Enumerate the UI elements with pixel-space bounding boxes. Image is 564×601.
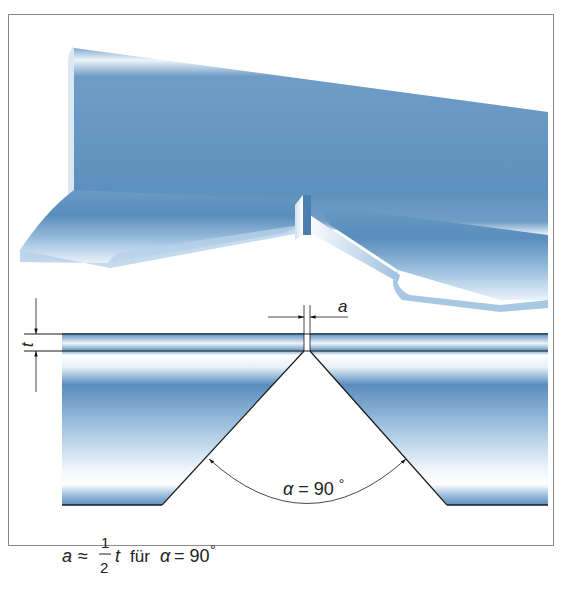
dimension-t: t (19, 298, 36, 392)
formula-eq: = 90 (174, 546, 210, 566)
cross-section: a t α = 90 ° (19, 297, 548, 506)
formula-deg: ° (210, 542, 216, 558)
wall-top-edge (68, 46, 74, 205)
formula-alpha: α (160, 546, 171, 566)
formula-approx: ≈ (78, 546, 88, 566)
weld-diagram: a t α = 90 ° a ≈ 1 2 t für α = 90 ° (0, 0, 564, 601)
formula-a: a (62, 546, 72, 566)
dimension-a-label: a (338, 297, 347, 316)
formula-frac-den: 2 (100, 559, 108, 576)
formula-fuer: für (130, 547, 150, 566)
formula-frac-num: 1 (101, 534, 109, 551)
dimension-t-label: t (19, 342, 36, 347)
angle-label: α = 90 ° (283, 476, 344, 499)
notch-slot (303, 195, 311, 235)
formula-t: t (115, 546, 121, 566)
angle-profile-3d (20, 46, 548, 312)
formula: a ≈ 1 2 t für α = 90 ° (62, 534, 216, 576)
